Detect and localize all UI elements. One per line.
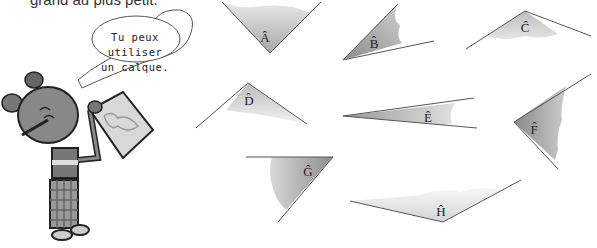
angle-F: F̂ [514, 74, 591, 169]
angle-B: B̂ [343, 4, 434, 60]
angle-label-H: Ĥ [436, 204, 445, 219]
angle-A: Â [222, 2, 321, 53]
angle-label-B: B̂ [370, 36, 379, 51]
angle-D: D̂ [196, 83, 307, 128]
bubble-line-2: un calque. [92, 60, 178, 75]
angle-label-F: F̂ [530, 122, 537, 137]
angle-label-A: Â [260, 30, 270, 45]
angles-diagram: Â B̂ Ĉ D̂ Ê F̂ Ĝ Ĥ [0, 0, 597, 248]
speech-bubble: Tu peux utiliser un calque. [92, 30, 178, 75]
angle-label-G: Ĝ [303, 164, 312, 179]
angle-label-D: D̂ [244, 93, 253, 108]
angle-G: Ĝ [246, 157, 333, 222]
bubble-line-1: Tu peux utiliser [92, 30, 178, 60]
angle-label-E: Ê [424, 110, 432, 125]
angle-label-C: Ĉ [521, 20, 530, 35]
angle-E: Ê [343, 98, 477, 128]
angle-C: Ĉ [466, 11, 591, 49]
angle-H: Ĥ [350, 180, 521, 222]
